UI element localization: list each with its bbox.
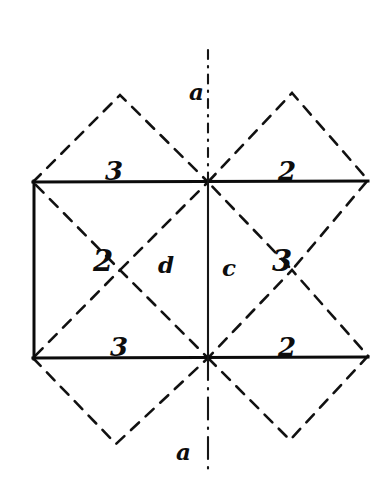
- dashed-diamond-group: [33, 93, 368, 444]
- label-2-bottom-right: 2: [278, 334, 296, 360]
- label-a-bottom: a: [176, 440, 191, 463]
- label-3-bottom-left: 3: [110, 334, 128, 360]
- top-horizontal-line: [33, 181, 368, 182]
- figure-drawing: [0, 0, 370, 501]
- label-c-mid: c: [222, 256, 236, 279]
- label-2-top-right: 2: [278, 158, 296, 184]
- figure-canvas: a 3 2 2 d c 3 3 2 a: [0, 0, 370, 501]
- label-3-top-left: 3: [105, 158, 123, 184]
- solid-rectangle-group: [33, 181, 368, 359]
- bottom-horizontal-line: [33, 357, 368, 358]
- label-a-top: a: [189, 80, 204, 103]
- label-3-mid-right: 3: [272, 247, 292, 276]
- label-2-mid-left: 2: [93, 247, 113, 276]
- label-d-mid: d: [158, 253, 174, 276]
